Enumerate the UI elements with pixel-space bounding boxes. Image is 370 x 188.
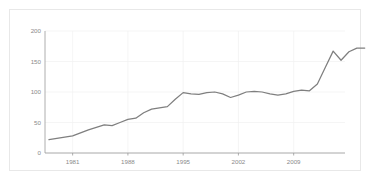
x-tick-label: 2002 xyxy=(232,158,246,165)
line-chart-plot: 050100150200 19811988199520022009 xyxy=(0,0,370,188)
y-tick-label: 50 xyxy=(34,119,41,126)
x-tick-label: 1981 xyxy=(66,158,80,165)
y-axis-tick-labels: 050100150200 xyxy=(31,27,42,156)
chart-figure: 050100150200 19811988199520022009 xyxy=(0,0,370,188)
y-tick-label: 100 xyxy=(31,88,42,95)
y-tick-label: 0 xyxy=(38,149,42,156)
x-axis-tick-labels: 19811988199520022009 xyxy=(66,158,301,165)
y-tick-label: 200 xyxy=(31,27,42,34)
x-tick-label: 1988 xyxy=(121,158,135,165)
x-tick-label: 1995 xyxy=(176,158,190,165)
y-tick-label: 150 xyxy=(31,58,42,65)
horizontal-gridlines xyxy=(45,31,345,153)
x-tick-label: 2009 xyxy=(287,158,301,165)
